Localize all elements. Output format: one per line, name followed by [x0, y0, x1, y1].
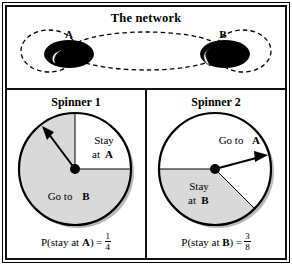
spinner-2-label-stay-line1: Stay — [189, 180, 209, 192]
node-a — [44, 40, 94, 68]
spinner-2-diagram: Go to A Stay at B — [156, 110, 276, 232]
spinner-1-label-stay-symbol: A — [105, 148, 113, 160]
spinner-2-label-go-to-a: Go to A — [219, 134, 260, 146]
spinner-1-prob-numerator: 1 — [105, 232, 112, 241]
spinner-2-prob-fraction: 3 8 — [244, 232, 251, 252]
spinner-1-prob-suffix: ) = — [90, 236, 103, 248]
spinner-1-prob-symbol: A — [82, 236, 90, 248]
spinner-1-hub — [70, 164, 80, 174]
spinner-1-panel: Spinner 1 Stay at A — [7, 90, 145, 260]
figure-root: The network A B Spinner 1 — [0, 0, 292, 265]
spinner-1-label-go-text: Go to — [48, 190, 73, 202]
node-a-label: A — [65, 28, 73, 40]
spinner-1-label-stay-at: at — [92, 148, 100, 160]
spinner-2-prob-prefix: P(stay at — [181, 236, 222, 248]
spinner-2-hub — [210, 164, 220, 174]
spinner-2-probability: P(stay at B) = 3 8 — [147, 232, 285, 252]
spinner-1-prob-fraction: 1 4 — [105, 232, 112, 252]
spinner-1-label-go-to-b: Go to B — [48, 190, 91, 202]
spinner-2-panel: Spinner 2 Go to A Stay — [147, 90, 285, 260]
spinner-1-title: Spinner 1 — [7, 95, 145, 110]
spinner-2-label-go-text: Go to — [219, 134, 244, 146]
spinner-2-label-stay-at: at — [188, 194, 196, 206]
spinner-2-label-stay-symbol: B — [201, 194, 209, 206]
spinner-2-prob-suffix: ) = — [230, 236, 243, 248]
network-panel: The network A B — [7, 7, 285, 88]
spinner-2-label-go-symbol: A — [252, 134, 260, 146]
spinner-2-prob-symbol: B — [222, 236, 229, 248]
spinner-1-label-go-symbol: B — [82, 190, 90, 202]
node-b — [200, 40, 250, 68]
network-diagram: A B — [7, 23, 285, 87]
spinner-2-prob-numerator: 3 — [244, 232, 251, 241]
spinner-1-prob-denominator: 4 — [105, 243, 112, 252]
spinner-1-probability: P(stay at A) = 1 4 — [7, 232, 145, 252]
spinner-1-prob-prefix: P(stay at — [41, 236, 82, 248]
spinner-1-label-stay-line1: Stay — [94, 134, 114, 146]
spinner-1-diagram: Stay at A Go to B — [16, 110, 136, 232]
spinner-2-title: Spinner 2 — [147, 95, 285, 110]
node-b-label: B — [219, 28, 227, 40]
spinner-2-prob-denominator: 8 — [244, 243, 251, 252]
